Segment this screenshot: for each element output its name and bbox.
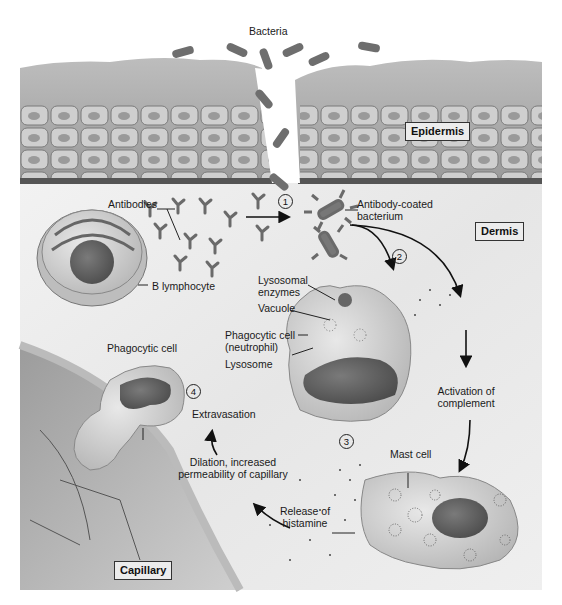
label-mast-cell: Mast cell <box>390 448 431 460</box>
label-b-lymphocyte: B lymphocyte <box>152 280 215 292</box>
diagram-canvas: Bacteria Epidermis Dermis Capillary Anti… <box>0 0 562 605</box>
label-bacteria: Bacteria <box>249 25 288 37</box>
label-dilation-line1: Dilation, increased <box>178 456 288 468</box>
label-release-line1: Release of <box>275 505 335 517</box>
label-lysosomal-line2: enzymes <box>258 286 300 298</box>
epidermis-left <box>20 58 278 184</box>
label-lysosome: Lysosome <box>225 358 272 370</box>
label-activation-line1: Activation of <box>436 385 496 397</box>
region-capillary: Capillary <box>114 561 172 580</box>
label-antibody-coated-line2: bacterium <box>357 210 403 222</box>
step-marker-2: 2 <box>392 249 407 264</box>
region-epidermis: Epidermis <box>405 122 470 141</box>
label-vacuole: Vacuole <box>258 302 295 314</box>
label-antibody-coated-line1: Antibody-coated <box>357 198 433 210</box>
label-antibodies: Antibodies <box>108 198 157 210</box>
label-release-line2: histamine <box>275 517 335 529</box>
label-activation-line2: complement <box>436 397 496 409</box>
step-marker-3: 3 <box>339 434 354 449</box>
b-lymphocyte-cell <box>37 210 147 306</box>
label-neutrophil-line1: Phagocytic cell <box>225 329 295 341</box>
step-marker-1: 1 <box>278 194 293 209</box>
label-neutrophil-line2: (neutrophil) <box>225 341 278 353</box>
label-lysosomal-line1: Lysosomal <box>258 274 308 286</box>
region-dermis: Dermis <box>475 222 524 241</box>
neutrophil-cell <box>287 286 411 422</box>
step-marker-4: 4 <box>186 384 201 399</box>
label-dilation-line2: permeability of capillary <box>178 468 288 480</box>
label-extravasation: Extravasation <box>192 408 256 420</box>
label-phagocytic-cell: Phagocytic cell <box>107 342 177 354</box>
